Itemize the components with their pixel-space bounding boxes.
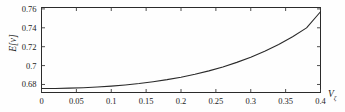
x-tick-label: 0 — [39, 96, 43, 106]
figure-container: E[ν] 00.050.10.150.20.250.30.350.4 0.680… — [0, 0, 345, 112]
chart-background — [0, 0, 345, 112]
x-axis-tick-labels: 00.050.10.150.20.250.30.350.4 — [39, 96, 326, 106]
x-tick-label: 0.1 — [106, 96, 117, 106]
x-tick-label: 0.2 — [176, 96, 187, 106]
x-tick-label: 0.25 — [208, 96, 223, 106]
x-tick-label: 0.3 — [245, 96, 256, 106]
y-tick-label: 0.68 — [22, 79, 37, 89]
x-tick-label: 0.15 — [139, 96, 154, 106]
x-tick-label: 0.4 — [315, 96, 326, 106]
y-axis-title-wrapper: E[ν] — [0, 30, 27, 64]
line-chart: 00.050.10.150.20.250.30.350.4 0.680.70.7… — [0, 0, 345, 112]
y-axis-title: E[ν] — [8, 25, 18, 61]
x-tick-label: 0.05 — [69, 96, 84, 106]
x-tick-label: 0.35 — [278, 96, 293, 106]
y-tick-label: 0.76 — [22, 4, 37, 14]
y-tick-label: 0.7 — [26, 61, 37, 71]
